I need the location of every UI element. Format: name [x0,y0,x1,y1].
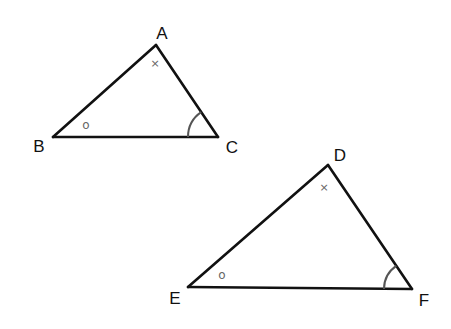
angle-f-arc [384,266,396,289]
vertex-label-a: A [156,24,168,43]
angle-c-arc [188,112,201,137]
vertex-label-c: C [226,138,238,157]
angle-b-circle-mark: o [82,118,89,132]
side-df [328,165,412,289]
angle-a-cross-mark: × [150,57,159,70]
side-ab [53,45,156,137]
similar-triangles-diagram: × o A B C × o D E F [0,0,451,329]
vertex-label-d: D [334,146,346,165]
angle-e-circle-mark: o [218,268,225,282]
triangle-def: × o D E F [169,146,429,310]
side-ef [188,287,412,289]
angle-d-cross-mark: × [319,181,328,194]
vertex-label-e: E [169,289,180,308]
triangle-abc: × o A B C [33,24,238,157]
side-ac [156,45,218,137]
side-de [188,165,328,287]
vertex-label-b: B [33,137,44,156]
vertex-label-f: F [419,291,429,310]
